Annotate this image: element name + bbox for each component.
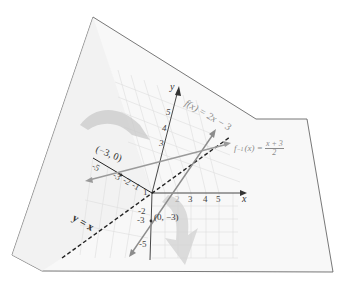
folded-paper-figure: y x 5 4 3 2 3 4 5 -5 -3 -2 -1 1 -1 -2 -3… [0, 0, 343, 287]
y-intercept-label: (0, −3) [154, 213, 179, 222]
f-inverse-fraction: x + 3 2 [265, 140, 284, 158]
x-tick-3: 3 [188, 195, 193, 204]
y-tick-4: 4 [162, 124, 167, 133]
y-tick-3: 3 [159, 139, 164, 148]
f-inverse-arg: (x) = [245, 144, 263, 153]
y-tick-neg5: -5 [139, 240, 147, 249]
f-inverse-sup: −1 [237, 146, 244, 152]
y-axis-label: y [170, 82, 174, 92]
x-tick-2: 2 [175, 195, 180, 204]
x-tick-4: 4 [203, 195, 208, 204]
x-axis-label: x [242, 194, 246, 204]
point-y-intercept [150, 220, 153, 223]
figure-canvas [0, 0, 343, 287]
f-inverse-denominator: 2 [272, 149, 276, 157]
folded-x-tick-1: 1 [143, 188, 148, 197]
y-tick-neg3: -3 [137, 216, 145, 225]
x-tick-5: 5 [216, 195, 221, 204]
y-tick-5: 5 [166, 108, 171, 117]
f-inverse-label: f−1(x) = x + 3 2 [234, 140, 284, 158]
